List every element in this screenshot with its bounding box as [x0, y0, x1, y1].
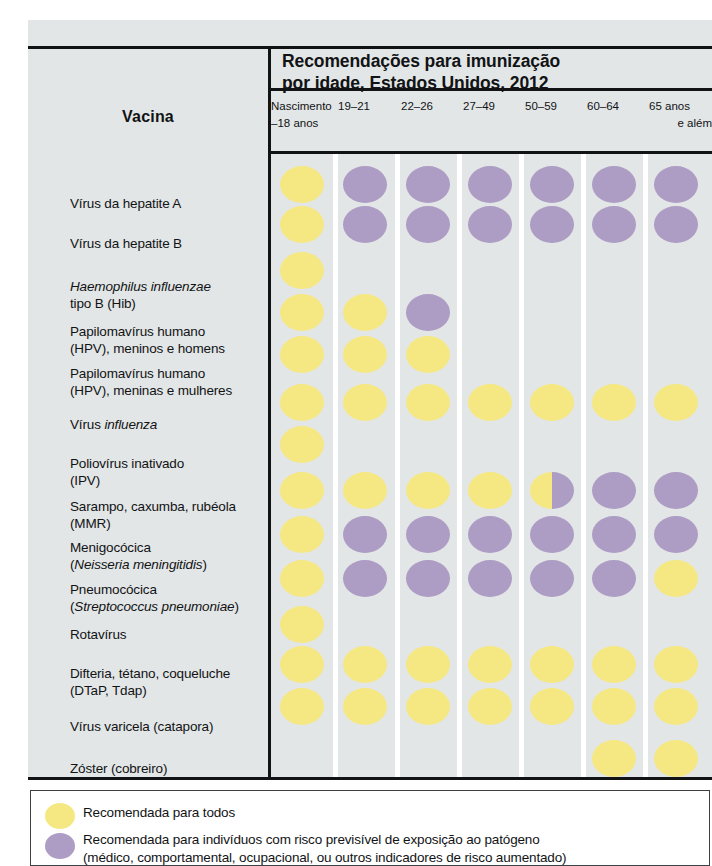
recommended-risk-marker: [530, 166, 574, 203]
recommended-risk-marker: [343, 516, 387, 553]
column-header-1: Nascimento–18 anos: [271, 96, 333, 151]
recommended-all-marker: [406, 688, 450, 725]
grid-cell: [406, 646, 450, 683]
legend-text: Recomendada para indivíduos com risco pr…: [83, 831, 566, 866]
grid-cell: [280, 516, 324, 553]
recommended-risk-marker: [592, 206, 636, 243]
column-header-line-2: –18 anos: [271, 115, 333, 132]
grid-cell: [280, 646, 324, 683]
grid-cell: [654, 384, 698, 421]
recommended-all-marker: [654, 646, 698, 683]
grid-cell: [343, 166, 387, 203]
recommended-risk-marker: [406, 516, 450, 553]
recommended-all-marker: [654, 560, 698, 597]
grid-cell: [280, 426, 324, 463]
recommended-all-marker: [592, 740, 636, 777]
grid-cell: [654, 472, 698, 509]
recommended-all-marker: [280, 646, 324, 683]
grid-cell: [468, 384, 512, 421]
grid-cell: [406, 206, 450, 243]
recommended-all-marker: [468, 384, 512, 421]
vaccine-label: Papilomavírus humano(HPV), meninas e mul…: [70, 365, 266, 400]
recommended-risk-marker: [343, 560, 387, 597]
grid-cell: [406, 384, 450, 421]
recommended-all-marker: [406, 336, 450, 373]
column-header-line-1: 27–49: [463, 98, 521, 115]
column-header-line-1: 50–59: [525, 98, 583, 115]
recommended-all-marker: [280, 166, 324, 203]
recommended-all-marker: [280, 252, 324, 289]
recommended-all-marker: [343, 294, 387, 331]
column-separator-6: [643, 154, 648, 777]
recommended-all-marker: [280, 426, 324, 463]
recommended-risk-marker: [406, 560, 450, 597]
table-title-line-2: por idade, Estados Unidos, 2012: [282, 72, 702, 94]
vaccine-label: Vírus varicela (catapora): [70, 718, 266, 735]
recommended-risk-marker: [468, 206, 512, 243]
recommended-all-marker: [343, 384, 387, 421]
recommended-all-marker: [530, 384, 574, 421]
vaccine-label: Haemophilus influenzaetipo B (Hib): [70, 278, 266, 313]
table-title: Recomendações para imunização por idade,…: [282, 50, 702, 95]
recommended-all-marker: [343, 646, 387, 683]
recommended-all-marker: [654, 740, 698, 777]
recommended-all-marker: [280, 516, 324, 553]
column-header-line-1: 22–26: [401, 98, 459, 115]
grid-cell: [406, 688, 450, 725]
recommended-all-marker: [468, 688, 512, 725]
recommended-all-marker: [343, 336, 387, 373]
grid-cell: [280, 560, 324, 597]
grid-cell: [592, 166, 636, 203]
recommended-all-marker: [406, 646, 450, 683]
recommended-all-marker: [406, 384, 450, 421]
grid-cell: [468, 472, 512, 509]
recommended-risk-marker: [406, 166, 450, 203]
grid-cell: [343, 472, 387, 509]
grid-cell: [592, 206, 636, 243]
grid-cell: [530, 384, 574, 421]
legend-swatch-recommended-all: [45, 803, 75, 829]
recommended-risk-marker: [592, 472, 636, 509]
grid-cell: [343, 560, 387, 597]
grid-cell: [406, 336, 450, 373]
vaccine-label: Pneumocócica(Streptococcus pneumoniae): [70, 581, 266, 616]
grid-cell: [406, 294, 450, 331]
grid-cell: [468, 516, 512, 553]
recommended-risk-marker: [468, 516, 512, 553]
recommended-all-marker: [654, 688, 698, 725]
grid-cell: [592, 472, 636, 509]
column-header-2: 19–21: [338, 96, 396, 151]
grid-cell: [592, 516, 636, 553]
grid-cell: [468, 206, 512, 243]
grid-cell: [343, 646, 387, 683]
recommended-risk-marker: [592, 516, 636, 553]
grid-cell: [654, 166, 698, 203]
grid-cell: [280, 688, 324, 725]
column-header-line-2: e além: [649, 115, 712, 132]
recommended-all-marker: [280, 472, 324, 509]
column-separator-2: [395, 154, 400, 777]
recommended-risk-marker: [654, 166, 698, 203]
recommended-all-marker: [530, 688, 574, 725]
recommended-risk-marker: [654, 516, 698, 553]
recommended-risk-marker: [343, 206, 387, 243]
recommended-risk-marker: [592, 560, 636, 597]
row-header-label: Vacina: [28, 108, 268, 126]
recommended-all-marker: [280, 688, 324, 725]
recommendation-grid: [271, 154, 712, 777]
grid-cell: [530, 206, 574, 243]
table-title-line-1: Recomendações para imunização: [282, 50, 702, 72]
column-separator-5: [581, 154, 586, 777]
column-header-6: 60–64: [587, 96, 645, 151]
grid-cell: [654, 560, 698, 597]
vaccine-label: Vírus da hepatite A: [70, 195, 266, 212]
recommended-all-marker: [592, 646, 636, 683]
grid-cell: [592, 560, 636, 597]
column-separator-3: [457, 154, 462, 777]
grid-cell: [592, 688, 636, 725]
recommended-risk-marker: [468, 560, 512, 597]
vaccine-label: Sarampo, caxumba, rubéola(MMR): [70, 498, 266, 533]
column-header-line-1: 19–21: [338, 98, 396, 115]
recommended-risk-marker: [406, 294, 450, 331]
legend-text: Recomendada para todos: [83, 804, 235, 822]
